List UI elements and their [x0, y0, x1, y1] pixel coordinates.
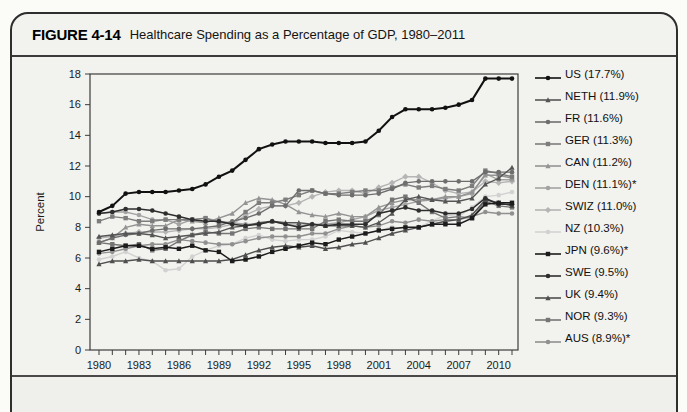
chart-legend: US (17.7%) NETH (11.9%) FR (11.6%) GER (… — [535, 68, 639, 344]
legend-label: UK (9.4%) — [565, 288, 618, 300]
svg-text:2004: 2004 — [406, 359, 430, 371]
svg-text:12: 12 — [69, 160, 81, 172]
legend-item-us: US (17.7%) — [535, 68, 639, 80]
svg-text:1989: 1989 — [207, 359, 231, 371]
legend-label: AUS (8.9%)* — [565, 332, 630, 344]
legend-label: US (17.7%) — [565, 68, 624, 80]
legend-marker-icon — [535, 157, 561, 167]
svg-text:2010: 2010 — [486, 359, 510, 371]
legend-item-jpn: JPN (9.6%)* — [535, 244, 639, 256]
svg-text:Percent: Percent — [34, 191, 46, 231]
chart-area: 0246810121416181980198319861989199219951… — [30, 60, 678, 376]
legend-item-swiz: SWIZ (11.0%) — [535, 200, 639, 212]
legend-label: CAN (11.2%) — [565, 156, 632, 168]
figure-title: Healthcare Spending as a Percentage of G… — [130, 27, 466, 42]
svg-text:1986: 1986 — [167, 359, 191, 371]
legend-marker-icon — [535, 333, 561, 343]
legend-item-uk: UK (9.4%) — [535, 288, 639, 300]
figure-footer-divider — [12, 375, 676, 412]
legend-item-aus: AUS (8.9%)* — [535, 332, 639, 344]
svg-text:2007: 2007 — [446, 359, 470, 371]
legend-marker-icon — [535, 201, 561, 211]
svg-text:2001: 2001 — [367, 359, 391, 371]
svg-text:0: 0 — [75, 344, 81, 356]
legend-item-swe: SWE (9.5%) — [535, 266, 639, 278]
svg-text:1980: 1980 — [87, 359, 111, 371]
legend-item-nz: NZ (10.3%) — [535, 222, 639, 234]
legend-item-nor: NOR (9.3%) — [535, 310, 639, 322]
svg-text:1995: 1995 — [287, 359, 311, 371]
legend-item-can: CAN (11.2%) — [535, 156, 639, 168]
legend-label: SWIZ (11.0%) — [565, 200, 636, 212]
legend-label: JPN (9.6%)* — [565, 244, 628, 256]
legend-marker-icon — [535, 113, 561, 123]
legend-label: FR (11.6%) — [565, 112, 623, 124]
legend-marker-icon — [535, 179, 561, 189]
legend-label: GER (11.3%) — [565, 134, 633, 146]
svg-text:8: 8 — [75, 221, 81, 233]
legend-item-den: DEN (11.1%)* — [535, 178, 639, 190]
figure-label: FIGURE 4-14 — [32, 26, 121, 43]
legend-marker-icon — [535, 223, 561, 233]
legend-marker-icon — [535, 91, 561, 101]
legend-item-fr: FR (11.6%) — [535, 112, 639, 124]
legend-marker-icon — [535, 311, 561, 321]
svg-text:10: 10 — [69, 190, 81, 202]
svg-text:4: 4 — [75, 282, 81, 294]
svg-text:16: 16 — [69, 98, 81, 110]
legend-marker-icon — [535, 69, 561, 79]
figure-box: FIGURE 4-14 Healthcare Spending as a Per… — [10, 12, 678, 412]
svg-text:1992: 1992 — [247, 359, 271, 371]
legend-label: SWE (9.5%) — [565, 266, 628, 278]
svg-text:1983: 1983 — [127, 359, 151, 371]
figure-title-bar: FIGURE 4-14 Healthcare Spending as a Per… — [12, 14, 676, 57]
legend-label: NZ (10.3%) — [565, 222, 624, 234]
legend-label: NETH (11.9%) — [565, 90, 639, 102]
legend-label: NOR (9.3%) — [565, 310, 628, 322]
legend-marker-icon — [535, 289, 561, 299]
legend-item-ger: GER (11.3%) — [535, 134, 639, 146]
svg-text:2: 2 — [75, 313, 81, 325]
legend-marker-icon — [535, 135, 561, 145]
legend-label: DEN (11.1%)* — [565, 178, 636, 190]
svg-text:6: 6 — [75, 252, 81, 264]
svg-text:1998: 1998 — [327, 359, 351, 371]
legend-marker-icon — [535, 267, 561, 277]
svg-text:14: 14 — [69, 129, 81, 141]
legend-item-neth: NETH (11.9%) — [535, 90, 639, 102]
svg-text:18: 18 — [69, 68, 81, 80]
legend-marker-icon — [535, 245, 561, 255]
